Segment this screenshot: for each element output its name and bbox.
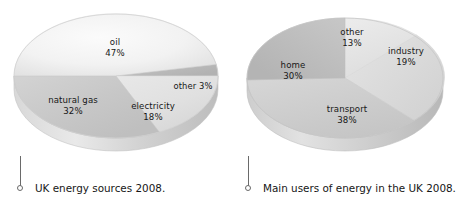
figure-caption-energy-users: Main users of energy in the UK 2008. [242, 156, 456, 196]
pie-chart-uk-energy-sources[interactable]: oil 47% natural gas 32% electricity 18% … [0, 0, 228, 160]
figure-caption-energy-sources: UK energy sources 2008. [14, 156, 165, 196]
pie-label-electricity-name: electricity [131, 101, 175, 111]
pie-chart-svg-energy-users: other 13% industry 19% home 30% transpor… [228, 0, 455, 160]
pie-label-industry-name: industry [388, 46, 424, 56]
figure-uk-energy-users: other 13% industry 19% home 30% transpor… [228, 0, 455, 208]
pie-label-other: other 3% [173, 81, 212, 91]
pie-label-oil-name: oil [110, 37, 120, 47]
pie-label-other-name: other [340, 27, 364, 37]
figure-uk-energy-sources: oil 47% natural gas 32% electricity 18% … [0, 0, 228, 208]
pie-label-natural-gas-name: natural gas [48, 95, 98, 105]
caption-pin-icon [14, 156, 28, 196]
caption-text-energy-sources: UK energy sources 2008. [28, 182, 165, 196]
pie-label-oil-value: 47% [105, 48, 124, 58]
pie-chart-svg-energy-sources: oil 47% natural gas 32% electricity 18% … [0, 0, 228, 160]
pie-label-other-value: 13% [342, 38, 361, 48]
pie-label-transport-name: transport [327, 104, 368, 114]
pie-slices-energy-sources [14, 14, 218, 138]
caption-pin-icon [242, 156, 256, 196]
pie-label-electricity-value: 18% [143, 112, 162, 122]
pie-label-natural-gas-value: 32% [63, 106, 82, 116]
pie-label-industry-value: 19% [396, 57, 415, 67]
pie-chart-uk-energy-users[interactable]: other 13% industry 19% home 30% transpor… [228, 0, 455, 160]
pie-label-home-name: home [281, 60, 306, 70]
pie-label-transport-value: 38% [337, 115, 356, 125]
caption-text-energy-users: Main users of energy in the UK 2008. [256, 182, 456, 196]
pie-label-home-value: 30% [283, 71, 302, 81]
